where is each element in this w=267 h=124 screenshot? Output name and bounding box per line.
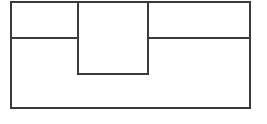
figure-canvas xyxy=(0,0,267,124)
diagram-background xyxy=(0,0,267,124)
partitioned-rectangle-diagram xyxy=(0,0,267,124)
